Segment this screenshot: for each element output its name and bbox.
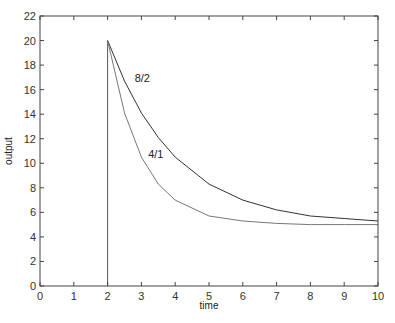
y-tick-label: 10 [24, 157, 36, 169]
x-tick-label: 8 [307, 290, 313, 302]
x-tick-label: 10 [372, 290, 384, 302]
y-tick-label: 6 [30, 206, 36, 218]
y-tick-label: 4 [30, 231, 36, 243]
y-tick-label: 16 [24, 84, 36, 96]
x-tick-label: 3 [138, 290, 144, 302]
y-tick-label: 2 [30, 255, 36, 267]
x-tick-label: 2 [105, 290, 111, 302]
x-tick-label: 0 [37, 290, 43, 302]
y-tick-label: 0 [30, 280, 36, 292]
x-tick-label: 1 [71, 290, 77, 302]
x-tick-label: 7 [274, 290, 280, 302]
y-tick-label: 12 [24, 133, 36, 145]
line-chart: 0123456789100246810121416182022 time out… [0, 0, 395, 323]
curve-label: 4/1 [148, 148, 163, 160]
x-axis-label: time [200, 300, 219, 311]
x-tick-label: 4 [172, 290, 178, 302]
curve-label: 8/2 [135, 72, 150, 84]
y-tick-label: 20 [24, 35, 36, 47]
y-tick-label: 22 [24, 10, 36, 22]
x-tick-label: 9 [341, 290, 347, 302]
y-tick-label: 8 [30, 182, 36, 194]
series-8-2-line [108, 41, 378, 222]
x-tick-label: 6 [240, 290, 246, 302]
y-tick-label: 14 [24, 108, 36, 120]
axis-ticks: 0123456789100246810121416182022 [24, 10, 384, 302]
series-4-1-line [108, 41, 378, 225]
curve-annotations: 8/24/1 [135, 72, 164, 160]
y-axis-label: output [3, 137, 14, 165]
plot-frame [40, 16, 378, 286]
y-tick-label: 18 [24, 59, 36, 71]
